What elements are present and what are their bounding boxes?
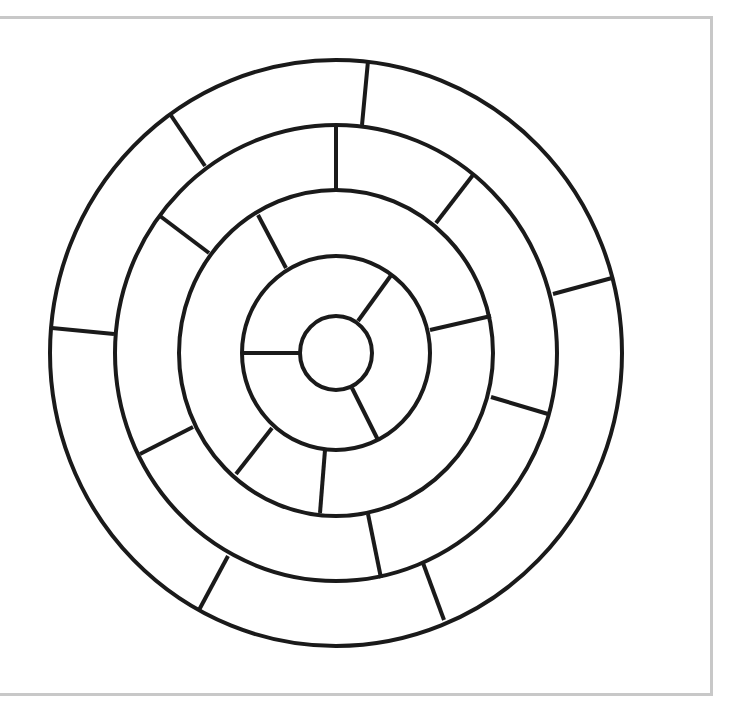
wall-divider bbox=[430, 316, 491, 330]
wall-divider bbox=[140, 427, 193, 454]
wall-divider bbox=[258, 215, 286, 268]
wall-divider bbox=[52, 328, 114, 334]
wall-divider bbox=[358, 274, 392, 321]
wall-divider bbox=[199, 556, 228, 610]
wall-divider bbox=[236, 428, 272, 474]
wall-divider bbox=[436, 175, 473, 223]
wall-divider bbox=[423, 563, 444, 620]
wall-divider bbox=[160, 216, 209, 253]
wall-divider bbox=[553, 278, 612, 294]
wall-divider bbox=[352, 388, 378, 440]
wall-divider bbox=[368, 514, 381, 578]
ring-ring-2 bbox=[115, 125, 557, 581]
wall-divider bbox=[362, 61, 368, 125]
wall-divider bbox=[170, 114, 205, 166]
ring-center bbox=[300, 316, 372, 390]
wall-divider bbox=[491, 397, 548, 414]
ring-ring-3 bbox=[179, 190, 493, 516]
circular-maze-diagram bbox=[0, 0, 749, 709]
wall-divider bbox=[320, 450, 325, 513]
